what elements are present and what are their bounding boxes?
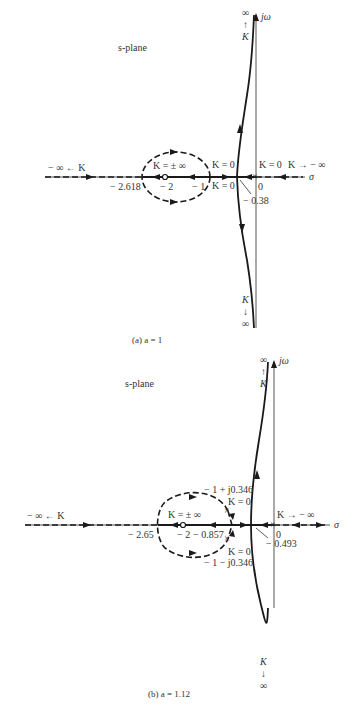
bottom-k-label: K	[259, 656, 268, 667]
s-plane-label: s-plane	[118, 42, 147, 53]
k-infinity-label: K = ± ∞	[153, 160, 186, 171]
top-k-label: K	[241, 31, 250, 42]
pole-marker-lower-icon: ×	[224, 533, 230, 544]
real-axis-label: σ	[309, 171, 315, 182]
tick-origin: 0	[276, 529, 281, 540]
tick-pole: − 0.493	[266, 538, 297, 549]
left-k-label: − ∞ ← K	[27, 510, 65, 521]
k-zero-origin-label: K = 0	[259, 159, 282, 170]
arrow-icon	[278, 174, 286, 180]
real-axis-label: σ	[334, 519, 340, 530]
arrow-icon	[152, 174, 160, 180]
caption-a: (a) a = 1	[132, 335, 162, 345]
imaginary-axis-label: jω	[277, 355, 289, 366]
bottom-infinity-label: ∞	[260, 680, 267, 691]
bottom-arrow-label: ↓	[243, 306, 248, 317]
bottom-infinity-label: ∞	[242, 318, 249, 329]
pointer-line	[240, 180, 251, 194]
top-infinity-label: ∞	[260, 354, 267, 365]
zero-marker-icon	[181, 523, 186, 528]
s-plane-label: s-plane	[125, 378, 154, 389]
figure-a: s-plane jω σ × ∞ ↑	[45, 7, 326, 345]
tick-pole2: − 0.38	[243, 195, 269, 206]
pole-marker-icon: ×	[252, 171, 258, 182]
top-infinity-label: ∞	[242, 7, 249, 18]
arrow-icon	[260, 522, 268, 528]
arrow-icon	[170, 522, 178, 528]
arrow-icon	[208, 522, 216, 528]
bottom-k-label: K	[241, 294, 250, 305]
arrow-icon	[170, 199, 178, 205]
right-k-label: K → − ∞	[288, 159, 326, 170]
arrow-icon	[316, 522, 324, 528]
arrow-icon	[239, 224, 245, 233]
arrow-icon	[86, 174, 94, 180]
tick-breakaway: − 2.65	[128, 529, 154, 540]
arrow-icon	[292, 522, 300, 528]
caption-b: (b) a = 1.12	[148, 689, 190, 699]
arrow-icon	[170, 149, 178, 155]
k-zero-upper-label: K = 0	[212, 159, 235, 170]
top-arrow-label: ↑	[243, 19, 248, 30]
top-k-label: K	[259, 378, 268, 389]
lower-pole-label: − 1 − j0.346	[204, 557, 253, 568]
right-k-label: K → − ∞	[277, 509, 315, 520]
lower-pole-k-label: K = 0	[228, 546, 251, 557]
pole-marker-origin-icon: ×	[270, 519, 276, 530]
left-k-label: − ∞ ← K	[48, 162, 86, 173]
tick-zero: − 2	[160, 181, 173, 192]
tick-origin: 0	[258, 181, 263, 192]
arrow-icon	[189, 550, 197, 556]
top-arrow-label: ↑	[261, 366, 266, 377]
arrow-icon	[189, 494, 197, 500]
tick-pole1: − 1	[192, 181, 205, 192]
pointer-line	[256, 528, 268, 538]
arrow-icon	[244, 174, 252, 180]
imaginary-axis-arrow-icon	[271, 360, 277, 368]
figure-b: s-plane jω σ × × × ∞ ↑ K	[25, 354, 340, 699]
bottom-arrow-label: ↓	[261, 668, 266, 679]
imaginary-axis-label: jω	[259, 11, 271, 22]
zero-marker-icon	[163, 175, 168, 180]
root-locus-figure: s-plane jω σ × ∞ ↑	[0, 0, 355, 716]
upper-pole-k-label: K = 0	[228, 496, 251, 507]
tick-zero: − 2	[177, 529, 190, 540]
k-zero-lower-label: K = 0	[212, 180, 235, 191]
arrow-icon	[187, 174, 195, 180]
tick-breakaway: − 2.618	[110, 181, 141, 192]
upper-pole-label: − 1 + j0.346	[204, 484, 253, 495]
tick-point: − 0.857	[193, 529, 224, 540]
k-infinity-label: K = ± ∞	[168, 509, 201, 520]
arrow-icon	[83, 522, 91, 528]
arrow-icon	[240, 522, 248, 528]
